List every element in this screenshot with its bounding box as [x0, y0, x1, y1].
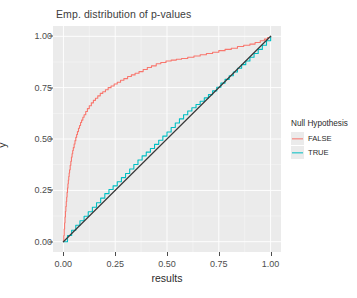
y-tick-mark: [49, 241, 53, 242]
legend-item-label: TRUE: [308, 148, 329, 157]
y-axis-title: y: [0, 142, 8, 147]
legend-item-false[interactable]: FALSE: [291, 132, 348, 145]
y-tick-mark: [49, 87, 53, 88]
legend-title: Null Hypothesis: [291, 119, 348, 128]
legend-key-line-icon: [291, 146, 304, 159]
y-tick-mark: [49, 139, 53, 140]
legend-items: FALSETRUE: [291, 132, 348, 159]
y-tick-mark: [49, 36, 53, 37]
legend-item-true[interactable]: TRUE: [291, 146, 348, 159]
x-tick-label: 0.50: [158, 259, 176, 269]
legend-key-line-icon: [291, 132, 304, 145]
x-tick-mark: [167, 252, 168, 256]
x-axis-title: results: [53, 272, 281, 284]
plot-panel: [53, 26, 281, 252]
plot-area-svg: [53, 26, 281, 252]
x-tick-mark: [219, 252, 220, 256]
x-tick-label: 0.75: [210, 259, 228, 269]
chart-container: Emp. distribution of p-values results y …: [0, 0, 357, 298]
legend-item-label: FALSE: [308, 134, 332, 143]
x-tick-label: 0.00: [55, 259, 73, 269]
x-tick-mark: [271, 252, 272, 256]
x-tick-label: 0.25: [106, 259, 124, 269]
x-tick-mark: [63, 252, 64, 256]
legend: Null Hypothesis FALSETRUE: [291, 119, 348, 160]
x-tick-label: 1.00: [262, 259, 280, 269]
chart-title: Emp. distribution of p-values: [56, 8, 191, 20]
x-tick-mark: [115, 252, 116, 256]
y-tick-mark: [49, 190, 53, 191]
